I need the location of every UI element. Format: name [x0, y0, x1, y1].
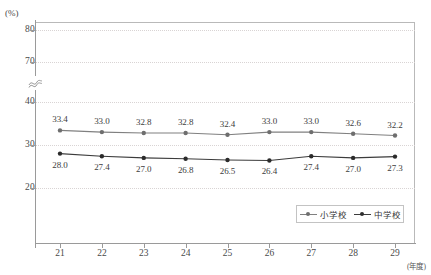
legend-label: 小学校 [320, 208, 347, 220]
x-axis-tick-label: 24 [171, 248, 201, 258]
data-point-label: 33.0 [85, 116, 119, 126]
x-axis-tick-mark [228, 243, 229, 248]
x-axis-tick-mark [311, 243, 312, 248]
x-axis-unit-label: (年度) [407, 260, 426, 271]
x-axis-tick-label: 25 [213, 248, 243, 258]
y-axis-unit-label: (%) [5, 8, 19, 18]
y-axis-tick-mark [30, 30, 35, 31]
y-axis-tick: 30 [0, 139, 35, 151]
legend-marker-icon [300, 210, 317, 219]
y-axis-tick: 80 [0, 24, 35, 36]
x-axis-tick-mark [186, 243, 187, 248]
x-axis-line [35, 243, 416, 244]
data-point-label: 26.8 [169, 165, 203, 175]
legend-item-juniorhigh[interactable]: 中学校 [354, 208, 401, 220]
data-point-label: 28.0 [43, 160, 77, 170]
y-axis-tick-mark [30, 188, 35, 189]
data-point-label: 26.4 [252, 166, 286, 176]
data-point-label: 27.4 [85, 162, 119, 172]
y-axis-line [35, 20, 36, 248]
x-axis-tick-mark [144, 243, 145, 248]
y-axis-tick: 40 [0, 96, 35, 108]
y-axis-tick: 70 [0, 56, 35, 68]
data-point-label: 32.4 [211, 119, 245, 129]
chart-legend: 小学校 中学校 [296, 205, 404, 223]
data-point-label: 33.4 [43, 114, 77, 124]
data-point-label: 32.2 [378, 120, 412, 130]
x-axis-tick-mark [60, 243, 61, 248]
data-point-label: 27.3 [378, 163, 412, 173]
data-point-label: 27.0 [127, 164, 161, 174]
data-point-label: 27.4 [294, 162, 328, 172]
gridline [36, 62, 415, 63]
legend-marker-icon [354, 210, 371, 219]
y-axis-tick-mark [30, 62, 35, 63]
x-axis-tick-mark [395, 243, 396, 248]
x-axis-tick-mark [102, 243, 103, 248]
data-point-label: 32.8 [169, 117, 203, 127]
x-axis-tick-mark [269, 243, 270, 248]
gridline [36, 188, 415, 189]
x-axis-tick-label: 22 [87, 248, 117, 258]
y-axis-tick-mark [30, 102, 35, 103]
x-axis-tick-label: 28 [338, 248, 368, 258]
data-point-label: 33.0 [294, 116, 328, 126]
data-point-label: 32.8 [127, 117, 161, 127]
y-axis-tick: 20 [0, 182, 35, 194]
data-point-label: 26.5 [211, 166, 245, 176]
line-chart: (%) 8070403020 212223242526272829 (年度) 3… [0, 0, 431, 275]
x-axis-tick-label: 21 [45, 248, 75, 258]
gridline [36, 30, 415, 31]
x-axis-tick-mark [353, 243, 354, 248]
legend-label: 中学校 [374, 208, 401, 220]
y-axis-tick-mark [30, 145, 35, 146]
x-axis-tick-label: 27 [296, 248, 326, 258]
data-point-label: 27.0 [336, 164, 370, 174]
x-axis-tick-label: 26 [254, 248, 284, 258]
x-axis-tick-label: 29 [380, 248, 410, 258]
legend-item-elementary[interactable]: 小学校 [300, 208, 347, 220]
data-point-label: 32.6 [336, 118, 370, 128]
axis-break-icon [28, 76, 43, 90]
data-point-label: 33.0 [252, 116, 286, 126]
gridline [36, 145, 415, 146]
gridline [36, 102, 415, 103]
x-axis-tick-label: 23 [129, 248, 159, 258]
